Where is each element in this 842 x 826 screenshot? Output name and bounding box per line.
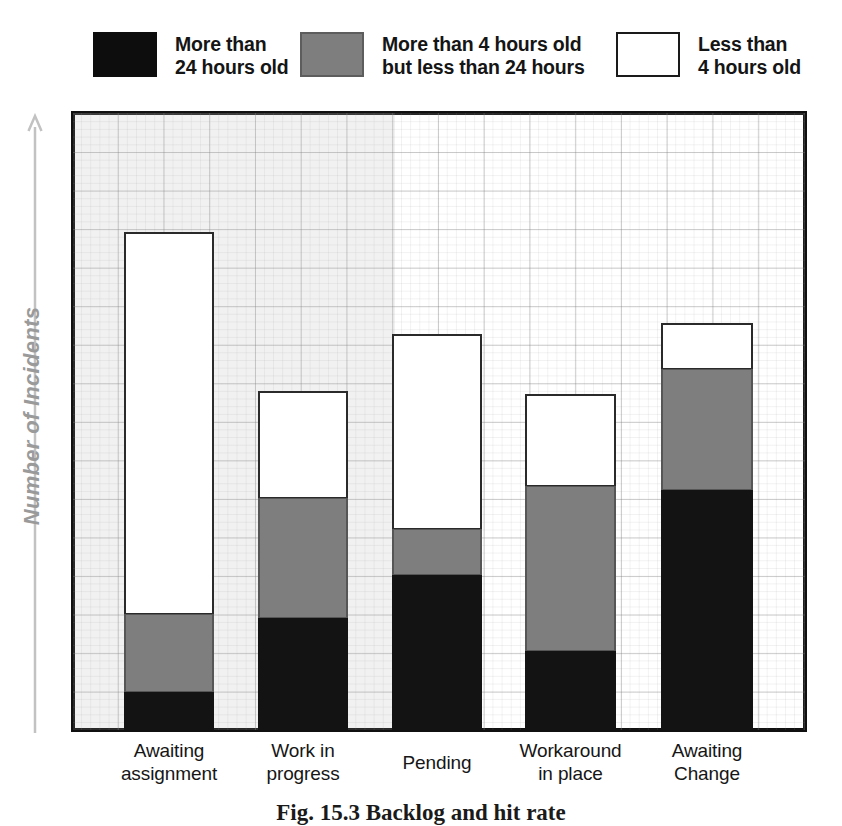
chart-legend: More than 24 hours old More than 4 hours… [0,0,842,108]
bar-segment-white [525,394,616,486]
x-axis-label-line1: Pending [402,752,471,773]
black-swatch-icon [93,32,157,77]
x-axis-label-line1: Awaiting [134,740,205,761]
legend-label-line2: but less than 24 hours [382,56,585,78]
bar-segment-black [392,575,482,730]
x-axis-labels: AwaitingassignmentWork inprogressPending… [73,740,805,796]
y-axis-title: Number of Incidents [19,176,45,656]
bar-segment-gray [124,614,214,692]
legend-item-4-to-24-hours: More than 4 hours old but less than 24 h… [300,32,585,78]
x-axis-label: AwaitingChange [622,740,792,786]
x-axis-label-line1: Work in [271,740,334,761]
bar-segment-black [661,490,753,730]
bar-awaiting-change [661,323,753,730]
legend-label-line2: 4 hours old [698,56,801,78]
bar-segment-white [661,323,753,369]
x-axis-label-line1: Workaround [519,740,621,761]
plot-area [73,113,805,730]
legend-label-line1: Less than [698,33,787,55]
x-axis-label-line2: progress [266,763,339,784]
gray-swatch-icon [300,32,364,77]
bar-segment-black [525,651,616,730]
bar-series-container [73,113,805,730]
bar-segment-black [124,692,214,730]
x-axis-label-line1: Awaiting [672,740,743,761]
bar-pending [392,334,482,730]
x-axis-label-line2: assignment [121,763,217,784]
legend-item-label: More than 4 hours old but less than 24 h… [382,32,585,78]
bar-segment-white [124,232,214,614]
x-axis-label-line2: Change [674,763,740,784]
legend-label-line1: More than 4 hours old [382,33,581,55]
bar-segment-gray [258,498,348,618]
bar-segment-black [258,618,348,730]
legend-label-line2: 24 hours old [175,56,289,78]
bar-awaiting-assignment [124,232,214,730]
legend-item-less-than-4-hours: Less than 4 hours old [616,32,801,78]
legend-item-label: Less than 4 hours old [698,32,801,78]
bar-segment-white [258,391,348,498]
figure-caption: Fig. 15.3 Backlog and hit rate [0,800,842,826]
bar-segment-gray [661,369,753,490]
bar-work-in-progress [258,391,348,730]
bar-segment-gray [392,529,482,575]
bar-workaround-in-place [525,394,616,730]
bar-segment-white [392,334,482,529]
legend-item-label: More than 24 hours old [175,32,289,78]
bar-segment-gray [525,486,616,651]
legend-item-more-than-24-hours: More than 24 hours old [93,32,289,78]
legend-label-line1: More than [175,33,266,55]
x-axis-label-line2: in place [538,763,603,784]
white-swatch-icon [616,32,680,77]
y-axis: Number of Incidents [0,113,70,733]
